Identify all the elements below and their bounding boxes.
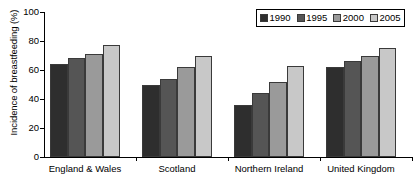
legend-item-2000: 2000 xyxy=(333,13,364,23)
y-tick-mark xyxy=(40,128,44,129)
x-tick-mark xyxy=(412,157,413,161)
y-tick-mark xyxy=(40,99,44,100)
legend-item-1990: 1990 xyxy=(260,13,291,23)
bar-1990-0 xyxy=(50,64,68,157)
y-tick-label: 100 xyxy=(23,6,39,17)
bar-2005-1 xyxy=(195,56,213,158)
legend-label: 2000 xyxy=(343,13,364,23)
legend-item-2005: 2005 xyxy=(370,13,401,23)
y-tick-mark xyxy=(40,70,44,71)
bar-1990-1 xyxy=(142,85,160,158)
bar-1995-0 xyxy=(68,58,86,157)
y-tick-label: 60 xyxy=(28,64,39,75)
bar-group xyxy=(50,12,120,157)
legend-swatch-icon xyxy=(370,14,378,22)
legend-swatch-icon xyxy=(333,14,341,22)
legend-swatch-icon xyxy=(260,14,268,22)
legend-swatch-icon xyxy=(297,14,305,22)
x-tick-mark xyxy=(136,157,137,161)
bar-1995-2 xyxy=(252,93,270,157)
y-tick-label: 0 xyxy=(34,151,39,162)
x-category-label: United Kingdom xyxy=(301,163,418,174)
bar-2005-2 xyxy=(287,66,305,157)
bar-1995-1 xyxy=(160,79,178,157)
bar-2000-0 xyxy=(85,54,103,157)
bar-2000-2 xyxy=(269,82,287,157)
legend-label: 1995 xyxy=(306,13,327,23)
y-tick-mark xyxy=(40,41,44,42)
legend-item-1995: 1995 xyxy=(297,13,328,23)
bar-1990-2 xyxy=(234,105,252,157)
legend-label: 1990 xyxy=(270,13,291,23)
y-tick-mark xyxy=(40,12,44,13)
bar-chart: Incidence of breastfeeding (%) 020406080… xyxy=(0,0,418,189)
y-axis-title: Incidence of breastfeeding (%) xyxy=(8,0,19,148)
legend-label: 2005 xyxy=(379,13,400,23)
bar-1995-3 xyxy=(344,61,362,157)
bar-group xyxy=(234,12,304,157)
bar-1990-3 xyxy=(326,67,344,157)
y-axis-line xyxy=(44,12,45,158)
x-tick-mark xyxy=(228,157,229,161)
y-tick-label: 40 xyxy=(28,93,39,104)
bar-group xyxy=(326,12,396,157)
y-tick-label: 20 xyxy=(28,122,39,133)
x-tick-mark xyxy=(320,157,321,161)
chart-legend: 1990199520002005 xyxy=(256,9,405,27)
plot-area: 020406080100 England & WalesScotlandNort… xyxy=(44,12,412,157)
bar-2000-3 xyxy=(361,56,379,158)
bar-2005-0 xyxy=(103,45,121,157)
bar-2005-3 xyxy=(379,48,397,157)
y-tick-mark xyxy=(40,157,44,158)
bar-group xyxy=(142,12,212,157)
y-tick-label: 80 xyxy=(28,35,39,46)
bar-2000-1 xyxy=(177,67,195,157)
